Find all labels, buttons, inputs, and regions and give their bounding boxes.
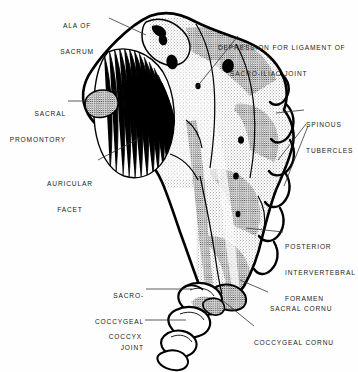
label-line: PROMONTORY	[0, 136, 66, 145]
label-line: INTERVERTEBRAL	[285, 269, 357, 278]
label-spinous-tubercles: SPINOUS TUBERCLES	[306, 104, 358, 164]
label-line: SACRO-ILIAC JOINT	[218, 70, 358, 79]
coccyx	[157, 283, 222, 370]
label-line: FACET	[40, 206, 100, 215]
anatomical-figure-sacrum-coccyx: ALA OF SACRUM DEPRESSION FOR LIGAMENT OF…	[0, 0, 358, 372]
label-auricular-facet: AURICULAR FACET	[40, 163, 100, 223]
label-line: SACRAL	[0, 110, 66, 119]
label-line: SACRUM	[46, 48, 108, 57]
label-line: COCCYX	[90, 333, 142, 342]
label-coccygeal-cornu: COCCYGEAL CORNU	[254, 322, 358, 356]
foramen-opening	[236, 211, 241, 217]
label-line: COCCYGEAL CORNU	[254, 339, 358, 348]
sacral-promontory-region	[85, 90, 118, 118]
label-line: SACRO-	[86, 292, 144, 301]
label-sacral-cornu: SACRAL CORNU	[270, 288, 356, 322]
label-sacral-promontory: SACRAL PROMONTORY	[0, 93, 66, 153]
label-ala-of-sacrum: ALA OF SACRUM	[46, 5, 108, 65]
label-line: SACRAL CORNU	[270, 305, 356, 314]
label-line: AURICULAR	[40, 180, 100, 189]
label-line: ALA OF	[46, 22, 108, 31]
label-line: TUBERCLES	[306, 147, 358, 156]
label-depression-for-ligament: DEPRESSION FOR LIGAMENT OF SACRO-ILIAC J…	[218, 27, 358, 87]
foramen-opening	[233, 172, 239, 179]
foramen-opening	[238, 136, 244, 144]
coccygeal-segment-4	[157, 350, 188, 370]
label-line: SPINOUS	[306, 121, 358, 130]
label-line: DEPRESSION FOR LIGAMENT OF	[218, 44, 358, 53]
label-line: POSTERIOR	[285, 243, 357, 252]
label-coccyx: COCCYX	[90, 316, 142, 350]
